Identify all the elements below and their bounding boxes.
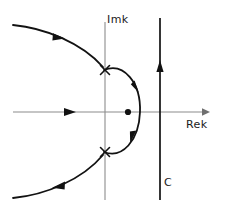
contour-c-group: [156, 18, 163, 200]
real-axis-flow-arrowhead: [64, 108, 76, 116]
real-axis-flow-arrow: [64, 108, 76, 116]
contour-label: C: [164, 177, 172, 188]
pole-marker: [125, 109, 131, 115]
loop-lower-arrowhead: [130, 131, 137, 144]
real-axis-arrowhead: [202, 108, 210, 116]
contour-c-arrowhead: [156, 60, 163, 72]
complex-plane-figure: Imk Rek C: [0, 0, 225, 212]
real-axis-label: Rek: [186, 119, 208, 130]
axes-group: [13, 22, 210, 200]
upper-incoming-arc: [13, 25, 103, 67]
loop-upper-arrowhead: [131, 81, 139, 93]
lower-outgoing-arc: [13, 155, 103, 198]
imaginary-axis-label: Imk: [107, 14, 129, 25]
figure-canvas: [0, 0, 225, 212]
